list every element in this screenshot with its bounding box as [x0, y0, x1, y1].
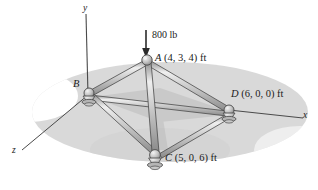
joint-A-label: A (4, 3, 4) ft: [155, 53, 206, 64]
load-arrow: [142, 30, 150, 58]
z-axis-label: z: [12, 146, 16, 156]
joint-B: [82, 88, 96, 106]
joint-C-coords: (5, 0, 6) ft: [175, 152, 217, 163]
joint-C-label: C (5, 0, 6) ft: [165, 153, 217, 164]
joint-D-label: D (6, 0, 0) ft: [231, 89, 284, 100]
joint-A-coords: (4, 3, 4) ft: [164, 52, 206, 63]
joint-D: [222, 105, 236, 123]
joint-B-label: B: [73, 79, 79, 90]
statics-truss-figure: y x z 800 lb A (4, 3, 4) ft B D (6, 0, 0…: [0, 0, 318, 190]
joint-C: [147, 150, 162, 170]
joint-D-letter: D: [231, 88, 239, 99]
joint-A-letter: A: [155, 52, 161, 63]
load-label: 800 lb: [152, 30, 177, 40]
joint-D-coords: (6, 0, 0) ft: [241, 88, 283, 99]
joint-C-letter: C: [165, 152, 172, 163]
x-axis-label: x: [303, 111, 307, 121]
y-axis-label: y: [83, 4, 87, 14]
joint-A: [142, 55, 152, 65]
